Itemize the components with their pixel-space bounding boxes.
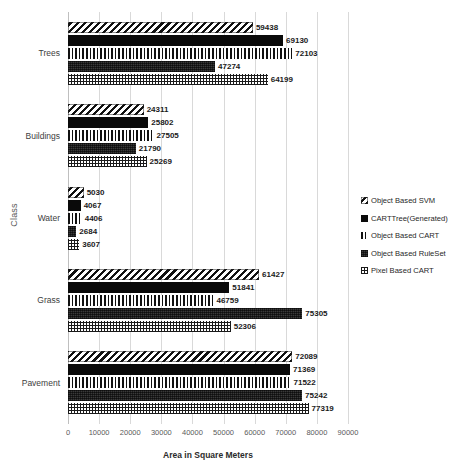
legend-label: Object Based RuleSet xyxy=(371,249,446,258)
bar xyxy=(68,377,291,388)
bar-value-label: 4067 xyxy=(81,200,102,211)
legend-label: Object Based SVM xyxy=(371,196,435,205)
category-label-pavement: Pavement xyxy=(0,378,60,388)
gridline-90000 xyxy=(348,12,349,424)
bar xyxy=(68,295,213,306)
x-tick-label: 60000 xyxy=(244,428,265,437)
bar-value-label: 21790 xyxy=(136,143,161,154)
bar-value-label: 4406 xyxy=(82,213,103,224)
dense-dark-icon xyxy=(361,250,368,257)
bar-value-label: 72103 xyxy=(292,48,317,59)
x-tick-label: 30000 xyxy=(151,428,172,437)
bar xyxy=(68,239,79,250)
legend-item-4[interactable]: Pixel Based CART xyxy=(361,262,469,280)
bar xyxy=(68,403,309,414)
bar-value-label: 3607 xyxy=(79,239,100,250)
bar-group-trees: Trees5943869130721034727464199 xyxy=(68,22,348,85)
x-tick-label: 90000 xyxy=(338,428,359,437)
bar-value-label: 47274 xyxy=(215,61,240,72)
x-tick-label: 40000 xyxy=(182,428,203,437)
bar-group-buildings: Buildings2431125802275052179025269 xyxy=(68,104,348,167)
bar-group-water: Water50304067440626843607 xyxy=(68,187,348,250)
bar xyxy=(68,226,76,237)
bar-value-label: 25802 xyxy=(148,117,173,128)
bar-group-pavement: Pavement7208971369715227524277319 xyxy=(68,351,348,414)
legend-item-0[interactable]: Object Based SVM xyxy=(361,192,469,210)
bar-value-label: 25269 xyxy=(147,156,172,167)
bar xyxy=(68,390,302,401)
bar xyxy=(68,364,290,375)
bar xyxy=(68,308,302,319)
bar xyxy=(68,48,292,59)
bar-value-label: 69130 xyxy=(283,35,308,46)
bar xyxy=(68,269,259,280)
bar-value-label: 5030 xyxy=(84,187,105,198)
legend-item-1[interactable]: CARTTree(Generated) xyxy=(361,210,469,228)
bar-value-label: 75242 xyxy=(302,390,327,401)
bar xyxy=(68,74,268,85)
category-label-trees: Trees xyxy=(0,48,60,58)
bar xyxy=(68,35,283,46)
solid-black-icon xyxy=(361,215,368,222)
bar-value-label: 75305 xyxy=(302,308,327,319)
x-tick-label: 50000 xyxy=(213,428,234,437)
bar-value-label: 59438 xyxy=(253,22,278,33)
crosshatch-grid-icon xyxy=(361,267,368,274)
bar-value-label: 52306 xyxy=(231,321,256,332)
bar-group-grass: Grass6142751841467597530552306 xyxy=(68,269,348,332)
bar-value-label: 46759 xyxy=(213,295,238,306)
category-label-grass: Grass xyxy=(0,295,60,305)
bar xyxy=(68,156,147,167)
bar xyxy=(68,61,215,72)
bar-value-label: 77319 xyxy=(309,403,334,414)
x-tick-label: 20000 xyxy=(120,428,141,437)
bar xyxy=(68,321,231,332)
legend-label: Object Based CART xyxy=(371,231,439,240)
category-label-water: Water xyxy=(0,213,60,223)
x-axis-ticks: 0100002000030000400005000060000700008000… xyxy=(68,428,348,442)
bar xyxy=(68,22,253,33)
bar-value-label: 64199 xyxy=(268,74,293,85)
bar xyxy=(68,187,84,198)
bar xyxy=(68,213,82,224)
bar xyxy=(68,351,292,362)
x-axis-title: Area in Square Meters xyxy=(68,450,348,460)
bar xyxy=(68,117,148,128)
legend-label: CARTTree(Generated) xyxy=(371,214,448,223)
x-tick-label: 80000 xyxy=(306,428,327,437)
legend-label: Pixel Based CART xyxy=(371,266,434,275)
bar xyxy=(68,200,81,211)
legend-item-3[interactable]: Object Based RuleSet xyxy=(361,245,469,263)
bar-value-label: 72089 xyxy=(292,351,317,362)
x-tick-label: 70000 xyxy=(275,428,296,437)
bar-value-label: 71522 xyxy=(291,377,316,388)
diagonal-stripes-icon xyxy=(361,197,368,204)
bar xyxy=(68,104,144,115)
bar-value-label: 61427 xyxy=(259,269,284,280)
bar-value-label: 71369 xyxy=(290,364,315,375)
bar xyxy=(68,143,136,154)
bar xyxy=(68,282,229,293)
bar-chart: Class Trees5943869130721034727464199Buil… xyxy=(0,0,470,466)
bar-value-label: 27505 xyxy=(154,130,179,141)
bar-value-label: 2684 xyxy=(76,226,97,237)
x-tick-label: 10000 xyxy=(89,428,110,437)
category-label-buildings: Buildings xyxy=(0,131,60,141)
vertical-stripes-icon xyxy=(361,232,368,239)
x-tick-label: 0 xyxy=(66,428,70,437)
chart-legend: Object Based SVMCARTTree(Generated)Objec… xyxy=(361,192,469,280)
bar-value-label: 51841 xyxy=(229,282,254,293)
legend-item-2[interactable]: Object Based CART xyxy=(361,227,469,245)
bar xyxy=(68,130,154,141)
plot-area: Trees5943869130721034727464199Buildings2… xyxy=(68,12,348,424)
bar-value-label: 24311 xyxy=(144,104,169,115)
